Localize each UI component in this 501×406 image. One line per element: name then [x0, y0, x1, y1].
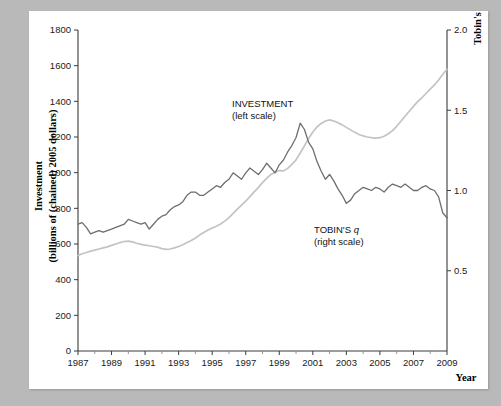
- right-tick-label: 1.0: [454, 185, 467, 196]
- left-axis-title-line1: Investment: [33, 160, 44, 211]
- left-tick-label: 200: [55, 310, 71, 321]
- x-tick-label: 1991: [135, 357, 156, 368]
- left-tick-label: 1400: [50, 96, 71, 107]
- annotation-investment-line2: (left scale): [232, 110, 276, 121]
- x-tick-label: 1997: [235, 357, 256, 368]
- right-tick-label: 1.5: [454, 105, 467, 116]
- figure-container: 020040060080010001200140016001800 0.51.0…: [0, 0, 501, 406]
- axis-frame: [78, 30, 447, 351]
- annotation-investment: INVESTMENT (left scale): [232, 98, 293, 121]
- left-axis-title-line2: (billions of (chained) 2005 dollars): [47, 109, 59, 262]
- x-tick-label: 1993: [168, 357, 189, 368]
- right-tick-label: 0.5: [454, 265, 467, 276]
- right-axis-title: Tobin's q: [472, 11, 483, 45]
- x-tick-label: 1999: [269, 357, 290, 368]
- left-tick-label: 0: [66, 345, 71, 356]
- left-tick-label: 400: [55, 274, 71, 285]
- annotation-tobin-line1: TOBIN'S q: [314, 224, 360, 235]
- chart-card: 020040060080010001200140016001800 0.51.0…: [29, 11, 488, 389]
- annotation-investment-line1: INVESTMENT: [232, 98, 293, 109]
- series-line-tobins-q: [78, 123, 447, 234]
- left-tick-label: 1800: [50, 24, 71, 35]
- right-tick-label: 2.0: [454, 24, 467, 35]
- x-tick-label: 1987: [67, 357, 88, 368]
- investment-tobins-q-chart: 020040060080010001200140016001800 0.51.0…: [29, 11, 488, 389]
- annotation-tobin-line2: (right scale): [314, 236, 364, 247]
- annotation-tobins-q: TOBIN'S q (right scale): [314, 224, 364, 247]
- x-tick-label: 2007: [403, 357, 424, 368]
- x-tick-label: 1989: [101, 357, 122, 368]
- right-axis-ticks: 0.51.01.52.0: [447, 24, 467, 276]
- x-tick-label: 2005: [369, 357, 390, 368]
- x-tick-label: 2001: [302, 357, 323, 368]
- x-axis-title: Year: [456, 372, 477, 383]
- x-tick-label: 2009: [436, 357, 457, 368]
- x-tick-label: 2003: [336, 357, 357, 368]
- x-tick-label: 1995: [202, 357, 223, 368]
- left-tick-label: 1600: [50, 60, 71, 71]
- x-axis-ticks: 1987198919911993199519971999200120032005…: [67, 351, 457, 368]
